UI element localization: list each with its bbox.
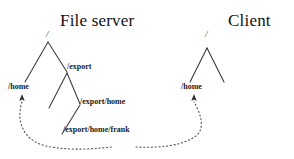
edge-root-to-export: [48, 42, 67, 72]
arrowhead-client-home: [191, 94, 196, 101]
edge-export-left: [49, 73, 67, 108]
client-root-label: /: [205, 30, 208, 39]
edge-client-root-right: [207, 48, 224, 82]
server-node-export: /export: [67, 63, 91, 71]
server-node-export-home: /export/home: [80, 98, 125, 106]
edge-export-to-export-home: [67, 73, 80, 104]
edge-client-root-left: [190, 48, 207, 82]
title-file-server: File server: [60, 12, 134, 29]
client-node-home: /home: [181, 83, 202, 91]
edge-root-to-home: [25, 42, 48, 82]
arrowhead-server-home: [19, 94, 24, 101]
server-tree-edges: [25, 42, 80, 134]
client-tree-edges: [190, 48, 224, 82]
connector-right-half: [136, 102, 201, 147]
server-node-export-home-frank: /export/home/frank: [63, 126, 130, 134]
server-root-label: /: [46, 30, 49, 39]
title-client: Client: [228, 12, 271, 29]
server-node-home: /home: [8, 83, 29, 91]
diagram-canvas: File server Client / / /home /export /ex…: [0, 0, 294, 159]
